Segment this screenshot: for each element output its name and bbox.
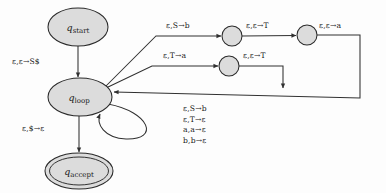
state-node-2[interactable] [297, 25, 317, 45]
edge-n3-to-loop [239, 66, 283, 88]
state-node-3[interactable] [219, 56, 239, 76]
self-loop-label-2: ε,T→ε [183, 115, 207, 126]
transition-label-loop-to-accept: ε,$→ε [22, 124, 44, 135]
edge-loop-to-n1 [105, 36, 221, 87]
edge-n1-to-n2 [242, 36, 296, 37]
transition-label-loop-to-n3: ε,T→a [163, 51, 186, 62]
transition-label-group-self-loop: ε,S→b ε,T→ε a,a→ε b,b→ε [183, 104, 207, 146]
edge-loop-self [99, 104, 146, 139]
transition-label-n2-to-loop: ε,ε→a [319, 21, 341, 32]
state-node-1[interactable] [222, 26, 242, 46]
transition-label-n3-to-loop: ε,ε→T [243, 51, 266, 62]
transition-label-start-to-loop: ε,ε→S$ [12, 57, 40, 68]
pda-state-diagram: qstart qloop qaccept ε,ε→S$ ε,S→b ε,ε→T … [0, 0, 386, 193]
transition-label-n1-to-n2: ε,ε→T [246, 21, 269, 32]
self-loop-label-3: a,a→ε [183, 125, 207, 136]
self-loop-label-1: ε,S→b [183, 104, 207, 115]
self-loop-label-4: b,b→ε [183, 136, 207, 147]
transition-label-loop-to-n1: ε,S→b [166, 21, 190, 32]
